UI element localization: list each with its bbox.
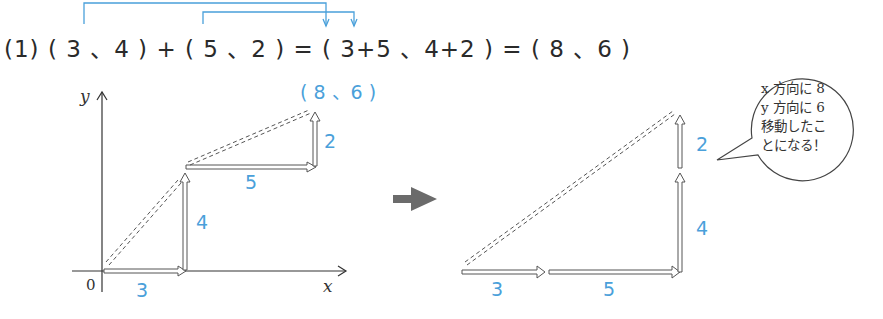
vector-label-2: 2 (324, 130, 336, 152)
left-coordinate-axes (72, 92, 346, 292)
speech-bubble-text: x 方向に 8 y 方向に 6 移動したこ とになる！ (761, 79, 826, 155)
equation-line: (1) ( 3 、4 ) + ( 5 、2 ) = ( 3+5 、4+2 ) =… (4, 30, 631, 64)
bubble-line: x 方向に 8 (761, 79, 826, 98)
vector-label-3: 3 (491, 278, 503, 300)
bracket-connectors (84, 3, 357, 26)
bubble-line: 移動したこ (761, 117, 826, 136)
problem-number: (1) (4, 36, 40, 62)
left-resultant-dashed (106, 110, 311, 265)
vector-b: ( 5 、2 ) (185, 36, 285, 62)
equals-sign: = (293, 36, 313, 62)
right-resultant-dashed (465, 111, 675, 265)
y-axis-label: y (80, 86, 90, 106)
vector-a: ( 3 、4 ) (48, 36, 148, 62)
vector-label-4: 4 (696, 217, 708, 239)
component-sum: ( 3+5 、4+2 ) (322, 36, 494, 62)
vector-label-5: 5 (603, 278, 615, 300)
vector-label-3: 3 (136, 279, 148, 301)
vector-label-5: 5 (245, 171, 257, 193)
vector-label-2: 2 (696, 133, 708, 155)
bubble-line: y 方向に 6 (761, 98, 826, 117)
origin-label: 0 (86, 276, 96, 294)
right-arrow-icon (393, 187, 437, 211)
endpoint-label: ( 8 、6 ) (300, 77, 376, 104)
plus-sign: + (156, 36, 176, 62)
vector-label-4: 4 (196, 211, 208, 233)
bubble-line: とになる！ (761, 136, 826, 155)
left-vectors (104, 112, 320, 276)
right-vectors (462, 115, 685, 278)
x-axis-label: x (323, 276, 333, 296)
result-vector: ( 8 、6 ) (531, 36, 631, 62)
equals-sign: = (502, 36, 522, 62)
